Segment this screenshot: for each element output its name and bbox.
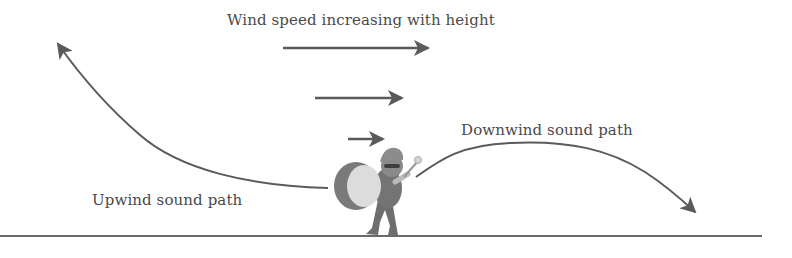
drumstick-tip	[415, 157, 422, 164]
drummer-glasses	[384, 164, 400, 168]
upwind-sound-path	[58, 44, 328, 188]
wind-sound-refraction-diagram	[0, 0, 792, 258]
downwind-sound-path	[416, 142, 695, 212]
downwind-label: Downwind sound path	[461, 121, 633, 139]
bass-drum-face	[347, 165, 381, 207]
wind-arrows	[283, 48, 428, 139]
drummer-figure	[334, 148, 422, 235]
upwind-label: Upwind sound path	[92, 191, 242, 209]
drummer-hat	[380, 148, 403, 162]
diagram-title: Wind speed increasing with height	[227, 11, 495, 29]
